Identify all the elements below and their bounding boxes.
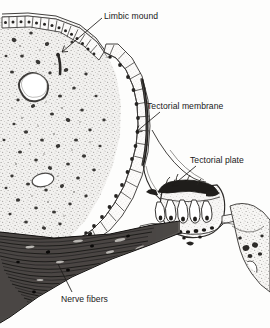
label-tectorial-membrane: Tectorial membrane — [147, 101, 223, 111]
label-nerve-fibers: Nerve fibers — [61, 294, 108, 304]
label-tectorial-plate: Tectorial plate — [190, 155, 244, 165]
histology-figure: Limbic mound Tectorial membrane Tectoria… — [0, 0, 270, 328]
blood-vessel-lumen — [19, 73, 48, 101]
label-limbic-mound: Limbic mound — [104, 11, 158, 21]
tissue-fragment-right — [230, 204, 270, 293]
